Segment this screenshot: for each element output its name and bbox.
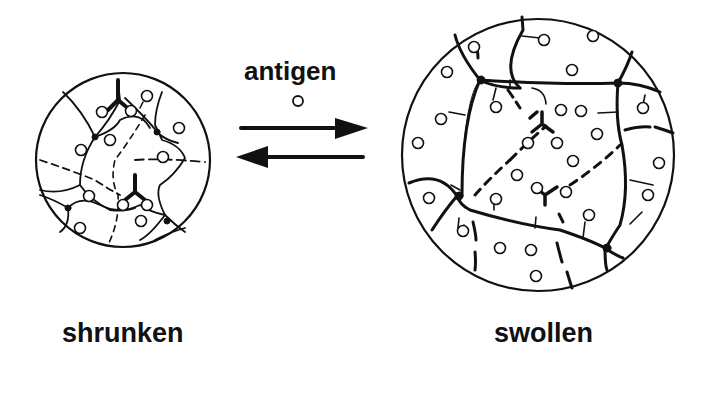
- antigen-icon: [293, 96, 303, 106]
- shrunken-label: shrunken: [62, 318, 184, 349]
- swollen-gel: [402, 17, 674, 291]
- forward-arrow-icon: [241, 118, 368, 139]
- equilibrium-arrows: [236, 96, 368, 168]
- reverse-arrow-icon: [236, 146, 363, 168]
- shrunken-gel: [36, 73, 210, 247]
- swollen-label: swollen: [494, 318, 593, 349]
- antigen-label: antigen: [244, 56, 336, 87]
